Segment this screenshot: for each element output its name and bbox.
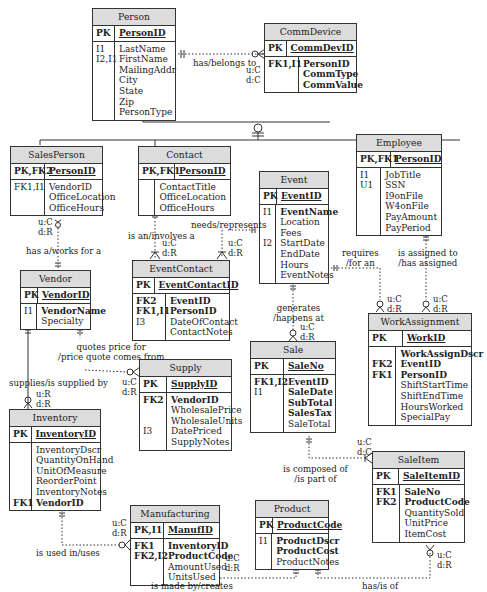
attr: SaleTotal (288, 419, 333, 430)
pk-label: PK (373, 469, 399, 484)
key: FK2 (376, 497, 396, 508)
attr: FirstName (119, 54, 176, 65)
pk-label: PK (140, 377, 167, 392)
attr: Specialty (41, 316, 106, 327)
entity-salesperson[interactable]: SalesPerson PK,FK2PersonID FK1,I1 Vendor… (10, 146, 103, 216)
attr: InventoryDscr (36, 445, 113, 456)
attr: City (119, 75, 176, 86)
rel-label-requires: requires/for an (342, 248, 379, 268)
attr: Fees (280, 228, 338, 239)
entity-workassignment[interactable]: WorkAssignment PKWorkID FK2FK1 WorkAssig… (368, 313, 472, 426)
entity-saleitem[interactable]: SaleItem PKSaleItemID FK1FK2 SaleNoProdu… (372, 451, 465, 543)
entity-commdevice[interactable]: CommDevice PKCommDevID FK1,I1 PersonIDCo… (264, 23, 357, 93)
pk-attr: PersonID (175, 164, 230, 179)
cardinality-eventcontact-1: u:Cd:R (162, 238, 177, 258)
key: FK1 (372, 370, 392, 381)
pk-attr: EventContactID (155, 278, 243, 293)
entity-supply[interactable]: Supply PKSupplyID FK2I3 VendorIDWholesal… (139, 359, 232, 451)
rel-label-quotes-price: quotes price for/price quote comes from (58, 342, 164, 362)
attr: I9onFile (385, 191, 437, 202)
pk-attr: SaleNo (284, 359, 335, 374)
key: I1 (96, 44, 111, 55)
key: I2,I1 (96, 54, 111, 65)
pk-attr: PersonID (115, 26, 175, 41)
key: I2 (263, 238, 272, 249)
attr: Location (280, 217, 338, 228)
attr: W4onFile (385, 201, 437, 212)
pk-attr: EventID (277, 189, 328, 204)
entity-title: WorkAssignment (369, 314, 471, 331)
key: FK1,I1 (136, 306, 162, 317)
attr: ReorderPoint (36, 476, 113, 487)
entity-contact[interactable]: Contact PK,FK1PersonID ContactTitleOffic… (138, 146, 231, 216)
pk-label: PK (256, 518, 273, 533)
entity-title: Person (93, 9, 175, 26)
cardinality-saleitem: u:Cd:C (357, 437, 372, 457)
attr: State (119, 86, 176, 97)
cardinality-supply: u:Cd:R (122, 377, 137, 397)
pk-label: PK (265, 41, 287, 56)
attr: ProductCode (168, 551, 233, 562)
entity-title: SaleItem (373, 452, 464, 469)
attr: PersonID (400, 370, 483, 381)
cardinality-workassignment-1: u:Cd:R (387, 294, 402, 314)
attr: EndDate (280, 249, 338, 260)
entity-event[interactable]: Event PKEventID I1I2 EventNameLocationFe… (259, 171, 329, 284)
key: FK1,I2 (254, 377, 280, 388)
attr: InventoryNotes (36, 487, 113, 498)
key: I1 (263, 207, 272, 218)
attr: WholesaleUnits (171, 416, 242, 427)
key: I1 (259, 536, 268, 547)
attr: CommType (303, 69, 363, 80)
cardinality-salesperson: u:Cd:R (38, 217, 53, 237)
entity-title: Vendor (21, 271, 90, 288)
entity-vendor[interactable]: Vendor PKVendorID I1 VendorNameSpecialty (20, 270, 91, 330)
attr: EventID (288, 377, 333, 388)
key: FK1,I1 (268, 59, 295, 70)
key: U1 (360, 180, 377, 191)
entity-inventory[interactable]: Inventory PKInventoryID FK1 InventoryDsc… (9, 409, 101, 511)
entity-product[interactable]: Product PKProductCode I1 ProductDscrProd… (255, 500, 329, 570)
attr: VendorID (36, 498, 113, 509)
attr: ProductCode (404, 497, 469, 508)
attr: HoursWorked (400, 402, 483, 413)
pk-label: PK,FK1 (139, 164, 175, 179)
rel-label-generates: generates/happens at (273, 303, 324, 323)
attr: SpecialPay (400, 412, 483, 423)
entity-employee[interactable]: Employee PK,FK1PersonID I1U1 JobTitleSSN… (356, 134, 442, 236)
attr: SubTotal (288, 398, 333, 409)
attr: PersonType (119, 107, 176, 118)
entity-manufacturing[interactable]: Manufacturing PK,I1ManufID FK1FK2,I2 Inv… (130, 505, 220, 586)
entity-sale[interactable]: Sale PKSaleNo FK1,I2I1 EventIDSaleDateSu… (250, 341, 336, 433)
entity-person[interactable]: Person PKPersonID I1I2,I1 LastNameFirstN… (92, 8, 176, 121)
pk-attr: PersonID (45, 164, 102, 179)
entity-eventcontact[interactable]: EventContact PKEventContactID FK2FK1,I1I… (132, 260, 230, 341)
cardinality-sale: u:Cd:R (300, 322, 315, 342)
rel-label-is-made-by: is made by/creates (151, 581, 233, 591)
attr: ShiftEndTime (400, 391, 483, 402)
rel-label-has-a-works-for: has a/works for a (26, 246, 101, 256)
attr: ProductNotes (276, 557, 339, 568)
key: I3 (136, 317, 162, 328)
pk-attr: SupplyID (167, 377, 231, 392)
cardinality-workassignment-2: u:Cd:R (433, 294, 448, 314)
pk-label: PK (369, 331, 403, 346)
attr: ShiftStartTime (400, 380, 483, 391)
attr: SaleNo (404, 487, 469, 498)
key: FK2,I2 (134, 551, 160, 562)
attr: EventID (170, 296, 238, 307)
entity-title: Manufacturing (131, 506, 219, 523)
cardinality-manufacturing-product: u:Cd:R (225, 553, 240, 573)
attr: VendorID (49, 182, 116, 193)
entity-title: Contact (139, 147, 230, 164)
cardinality-saleitem-product: u:Cd:R (437, 550, 452, 570)
attr: OfficeLocation (49, 192, 116, 203)
pk-attr: ManufID (164, 523, 219, 538)
rel-label-is-assigned-to: is assigned to/has assigned (398, 248, 458, 268)
key: FK2 (136, 296, 162, 307)
cardinality-manufacturing-inventory: u:Cd:R (112, 518, 127, 538)
rel-label-supplies: supplies/is supplied by (9, 378, 108, 388)
attr: OfficeHours (49, 203, 116, 214)
pk-attr: ProductCode (273, 518, 346, 533)
entity-title: Product (256, 501, 328, 518)
